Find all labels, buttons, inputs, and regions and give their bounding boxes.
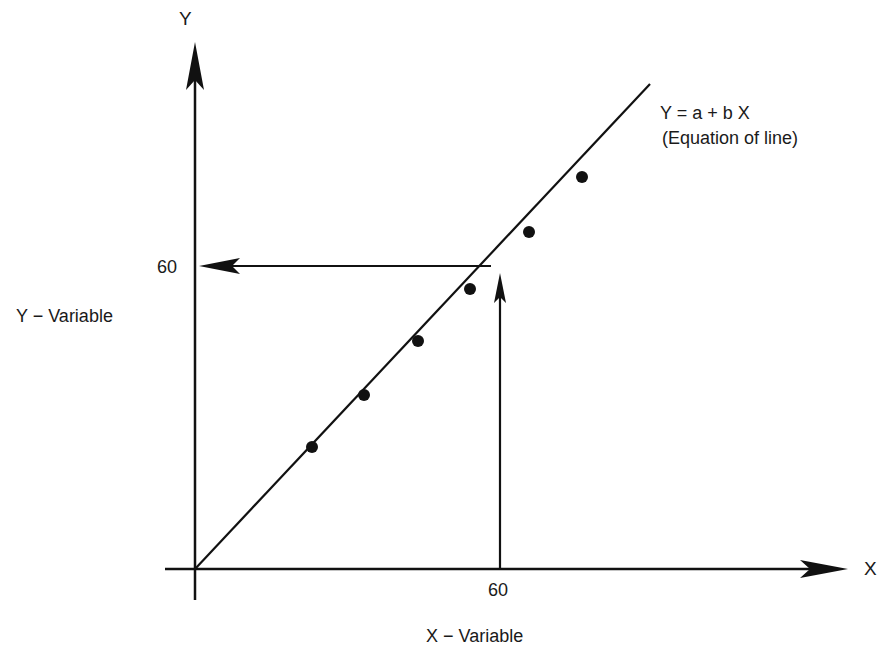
y-axis-label: Y xyxy=(179,8,192,30)
data-point xyxy=(464,283,476,295)
data-point xyxy=(306,441,318,453)
y-variable-label: Y − Variable xyxy=(16,306,113,327)
data-point xyxy=(412,335,424,347)
data-point xyxy=(576,171,588,183)
x-axis-label: X xyxy=(864,558,877,580)
equation-caption: (Equation of line) xyxy=(662,128,798,149)
x-tick-60: 60 xyxy=(488,580,508,601)
regression-line xyxy=(195,84,650,569)
data-point xyxy=(358,389,370,401)
x-variable-label: X − Variable xyxy=(426,626,523,647)
y-tick-60: 60 xyxy=(157,257,177,278)
equation-label: Y = a + b X xyxy=(660,103,750,124)
data-points xyxy=(306,171,588,453)
data-point xyxy=(523,226,535,238)
regression-diagram xyxy=(0,0,894,658)
